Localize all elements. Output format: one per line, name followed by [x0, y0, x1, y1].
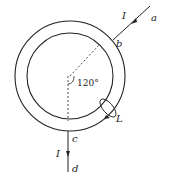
- radius-to-b: [70, 45, 99, 76]
- label-current-bottom: I: [55, 148, 61, 159]
- label-angle: 120°: [77, 78, 99, 88]
- label-current-top: I: [121, 10, 127, 21]
- label-d: d: [72, 163, 78, 174]
- angle-arc: [68, 76, 74, 84]
- current-arrow-top: [131, 18, 137, 24]
- current-arrow-bottom: [66, 151, 70, 157]
- label-a: a: [151, 12, 157, 23]
- label-b: b: [116, 38, 122, 49]
- wire-a-b: [113, 6, 150, 40]
- label-loop: L: [115, 113, 123, 124]
- ring-diagram: I a b 120° L c I d: [0, 0, 169, 188]
- label-c: c: [72, 133, 78, 144]
